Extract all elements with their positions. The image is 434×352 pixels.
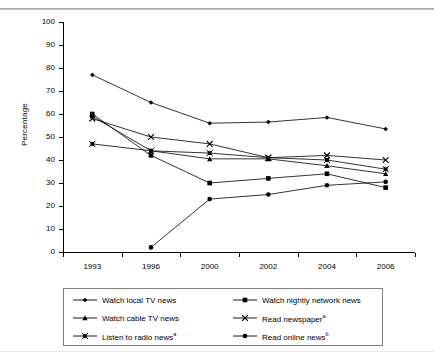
page-top-artifact [0,0,434,8]
x-marker-icon [232,313,258,323]
series-plot-area [0,10,434,280]
legend-item-2[interactable]: Watch nightly network news [232,295,361,305]
circle-marker-icon [232,331,258,341]
legend-item-6[interactable]: Read online newsb [232,331,329,342]
legend-label: Read newspapera [262,313,326,324]
legend-item-1[interactable]: Watch local TV news [72,295,176,305]
legend-label: Listen to radio newsa [102,331,176,342]
legend-label: Watch cable TV news [102,314,179,323]
legend-item-5[interactable]: Listen to radio newsa [72,331,176,342]
x-square-marker-icon [72,331,98,341]
series-6 [149,180,388,250]
legend-footnote-marker: a [322,313,325,319]
series-1 [90,73,388,132]
legend-footnote-marker: b [326,331,329,337]
legend-label: Read online newsb [262,331,329,342]
legend-item-4[interactable]: Read newspapera [232,313,326,324]
legend-item-3[interactable]: Watch cable TV news [72,313,179,323]
triangle-marker-icon [72,313,98,323]
chart-legend: Watch local TV newsWatch nightly network… [63,288,383,346]
square-marker-icon [232,295,258,305]
legend-label: Watch local TV news [102,296,176,305]
legend-footnote-marker: a [173,331,176,337]
line-chart: Percentage 0102030405060708090100 199319… [0,10,434,280]
diamond-marker-icon [72,295,98,305]
legend-label: Watch nightly network news [262,296,361,305]
